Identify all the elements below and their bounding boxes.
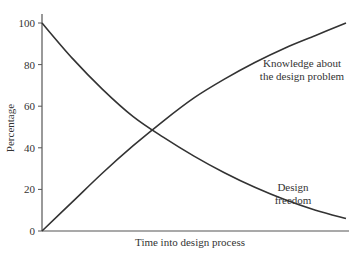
y-tick-label: 0 [30,225,36,237]
y-tick-label: 60 [24,100,36,112]
y-axis-ticks: 020406080100 [19,17,43,237]
knowledge-label: the design problem [260,70,345,82]
x-axis-title: Time into design process [135,236,245,248]
y-tick-label: 40 [24,142,36,154]
series-annotations: Knowledge aboutthe design problemDesignf… [260,57,345,206]
y-tick-label: 100 [19,17,36,29]
y-tick-label: 20 [24,183,36,195]
chart: 020406080100 Percentage Time into design… [0,0,363,254]
design-freedom-label: freedom [275,194,312,206]
knowledge-label: Knowledge about [263,57,341,69]
y-axis-title: Percentage [4,104,16,152]
y-tick-label: 80 [24,59,36,71]
design-freedom-label: Design [277,181,309,193]
